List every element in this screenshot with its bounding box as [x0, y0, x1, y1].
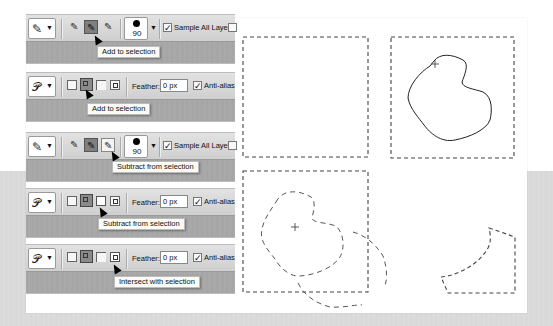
lasso-path-solid: [408, 55, 491, 140]
tutorial-figure: ✎ ▼ ✎ ✎ ✎ 90 ▼ ✓ Sample All Layers Add t…: [0, 0, 553, 326]
crosshair-icon: [291, 60, 439, 231]
rectangular-selection-marquee: [243, 37, 368, 157]
selection-illustrations: [0, 0, 553, 326]
add-selection-marquee: [391, 37, 514, 158]
intersect-result-marquee: [441, 228, 515, 293]
